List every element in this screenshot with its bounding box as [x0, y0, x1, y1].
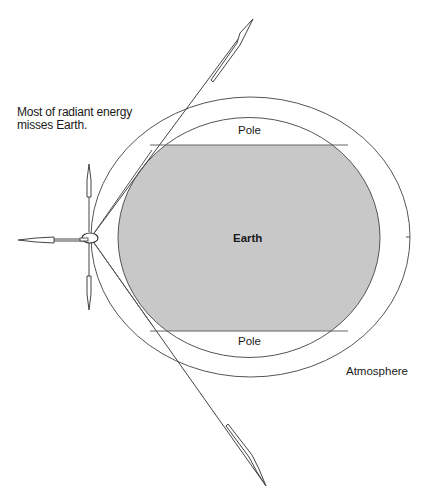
radiant-energy-note: Most of radiant energy misses Earth.: [17, 106, 132, 132]
pole-bottom-label: Pole: [238, 335, 261, 348]
satellite-panel: [80, 238, 88, 241]
note-line-2: misses Earth.: [17, 119, 132, 132]
earth-label: Earth: [233, 232, 262, 245]
up-arrow: [87, 164, 91, 232]
diagram-canvas: [0, 0, 432, 504]
down-arrow: [87, 243, 91, 310]
left-arrow: [18, 237, 84, 243]
atmosphere-label: Atmosphere: [346, 365, 408, 378]
pole-top-label: Pole: [238, 124, 261, 137]
